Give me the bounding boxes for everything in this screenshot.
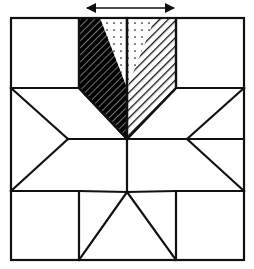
figure-canvas (0, 0, 254, 269)
star-quilt-figure (0, 0, 254, 269)
seam-bottomleft-diamond-outer (79, 191, 127, 192)
seam-bottomright-diamond-outer (127, 191, 176, 192)
